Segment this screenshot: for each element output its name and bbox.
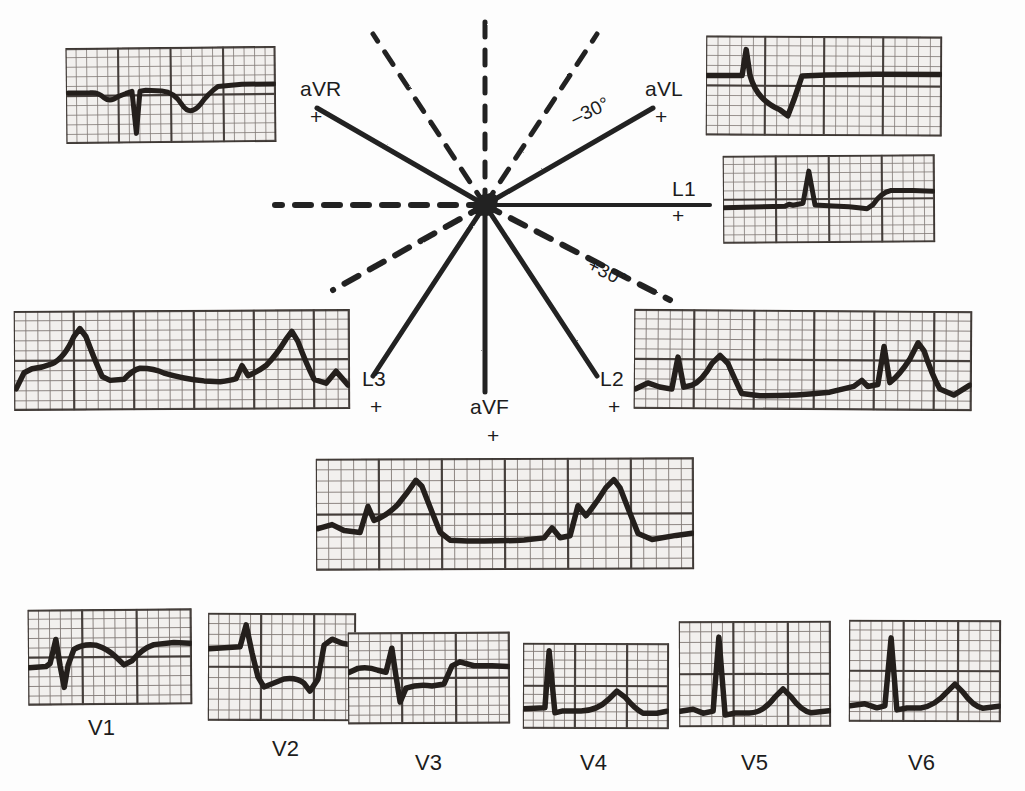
ecg-trace-V5: [679, 621, 831, 728]
ecg-strip-V2: [208, 613, 356, 722]
lead-label-V6: V6: [908, 752, 935, 774]
ecg-strip-V5: [679, 621, 831, 728]
lead-label-V4: V4: [580, 752, 607, 774]
axis-label-aVR: aVR: [300, 78, 341, 99]
ecg-trace-V3: [348, 632, 510, 725]
axis-line-neg-L2: [373, 34, 485, 205]
ecg-strip-aVF: [316, 457, 694, 570]
ecg-strip-V6: [849, 620, 1001, 723]
figure-canvas: aVR + aVL + L1 + L2 + L3 + aVF + –30° +3…: [0, 0, 1025, 791]
ecg-trace-L3: [14, 309, 351, 411]
axis-polarity-L3: +: [370, 396, 382, 417]
axis-line-L3: [373, 205, 485, 376]
ecg-strip-V1: [28, 608, 193, 705]
lead-label-V5: V5: [741, 752, 768, 774]
ecg-trace-aVR: [66, 46, 277, 144]
ecg-strip-aVR: [66, 46, 277, 144]
axis-polarity-L1: +: [672, 205, 684, 226]
axis-polarity-aVF: +: [487, 425, 499, 446]
ecg-strip-aVL: [706, 35, 943, 136]
ecg-strip-L1: [723, 154, 936, 243]
ecg-strip-V4: [523, 643, 669, 730]
axis-polarity-L2: +: [608, 396, 620, 417]
ecg-trace-V1: [28, 608, 193, 705]
axis-label-L3: L3: [362, 368, 386, 389]
axis-label-L1: L1: [672, 178, 696, 199]
ecg-trace-V4: [523, 643, 669, 730]
lead-label-V1: V1: [88, 717, 115, 739]
ecg-trace-L2: [634, 309, 973, 411]
ecg-strip-V3: [348, 632, 510, 725]
lead-label-V3: V3: [415, 752, 442, 774]
ecg-strip-L2: [634, 309, 973, 411]
ecg-trace-aVL: [706, 35, 943, 136]
axis-line-neg-aVL: [333, 205, 485, 290]
lead-label-V2: V2: [272, 738, 299, 760]
ecg-strip-L3: [14, 309, 351, 411]
axis-label-L2: L2: [600, 368, 624, 389]
ecg-trace-V2: [208, 613, 356, 722]
axis-polarity-aVR: +: [310, 106, 322, 127]
ecg-trace-aVF: [316, 457, 694, 570]
axis-line-neg-aVR: [485, 205, 670, 300]
axis-label-aVF: aVF: [470, 396, 509, 417]
axis-polarity-aVL: +: [655, 106, 667, 127]
axis-line-aVR: [317, 108, 485, 205]
axis-label-aVL: aVL: [645, 78, 683, 99]
ecg-trace-L1: [723, 154, 936, 243]
ecg-trace-V6: [849, 620, 1001, 723]
axis-line-aVL: [485, 108, 653, 205]
